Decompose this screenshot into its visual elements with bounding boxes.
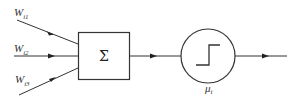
sigma-symbol: Σ	[99, 48, 109, 64]
input-2-label: Wi2	[14, 42, 29, 57]
output-connector	[235, 54, 287, 59]
sum-to-activation-connector	[130, 54, 181, 59]
input-1: Wi1	[14, 6, 78, 44]
neuron-diagram: Wi1 Wi2 Wi3 Σ μi	[0, 0, 296, 104]
input-2: Wi2	[14, 42, 78, 59]
input-3: Wi3	[15, 68, 78, 95]
input-3-label: Wi3	[15, 73, 30, 88]
input-1-label: Wi1	[14, 6, 29, 21]
activation-label: μi	[204, 82, 213, 96]
summation-block: Σ	[79, 33, 130, 80]
activation-block: μi	[181, 29, 235, 96]
